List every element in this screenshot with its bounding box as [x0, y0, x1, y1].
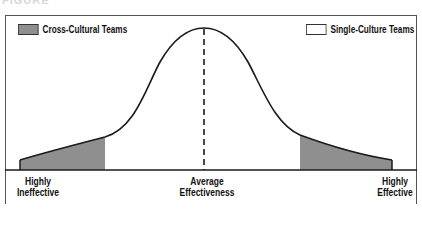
left-tail-shaded-region: [20, 137, 105, 170]
legend-swatch-white: [306, 24, 327, 35]
legend-swatch-gray: [18, 24, 39, 35]
label-line: Highly: [374, 176, 417, 187]
label-line: Effective: [374, 187, 417, 198]
label-line: Effectiveness: [177, 187, 237, 198]
legend-item-single-culture: Single-Culture Teams: [306, 24, 414, 35]
x-label-highly-ineffective: Highly Ineffective: [14, 176, 62, 198]
legend-item-cross-cultural: Cross-Cultural Teams: [18, 24, 127, 35]
legend-label: Single-Culture Teams: [331, 24, 415, 35]
label-line: Highly: [14, 176, 62, 187]
x-label-highly-effective: Highly Effective: [374, 176, 417, 198]
bell-curve-line: [20, 28, 392, 160]
label-line: Average: [177, 176, 237, 187]
legend-label: Cross-Cultural Teams: [43, 24, 128, 35]
label-line: Ineffective: [14, 187, 62, 198]
x-label-average-effectiveness: Average Effectiveness: [177, 176, 237, 198]
